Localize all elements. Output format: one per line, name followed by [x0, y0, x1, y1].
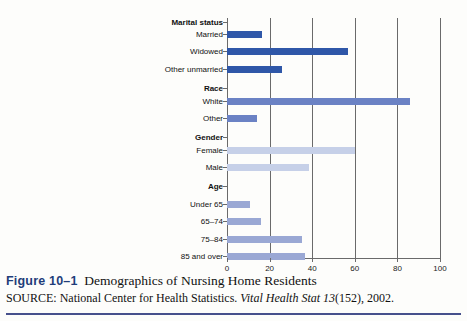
bar-65-74 [227, 218, 261, 225]
bar-male [227, 164, 309, 171]
category-axis-labels: Marital status Married Widowed Other unm… [0, 18, 223, 258]
bar-under-65 [227, 201, 250, 208]
source-prefix: SOURCE: National Center for Health Stati… [6, 291, 237, 305]
category-label-65-74: 65–74 [201, 217, 223, 226]
xtick-mark-60 [355, 258, 356, 262]
bar-female [227, 147, 355, 154]
category-label-75-84: 75–84 [201, 235, 223, 244]
bar-75-84 [227, 236, 302, 243]
xtick-mark-80 [397, 258, 398, 262]
gridline-80 [397, 18, 398, 258]
cat-tick-race [223, 88, 227, 89]
bar-other-unmarried [227, 66, 282, 73]
caption-source-line: SOURCE: National Center for Health Stati… [6, 290, 461, 306]
figure-number: Figure 10–1 [6, 274, 78, 288]
bar-chart: Marital status Married Widowed Other unm… [0, 0, 467, 272]
group-label-race: Race [204, 84, 223, 93]
group-label-gender: Gender [195, 133, 223, 142]
category-label-85-and-over: 85 and over [181, 252, 223, 261]
category-label-male: Male [206, 163, 223, 172]
bar-white [227, 98, 410, 105]
category-label-widowed: Widowed [190, 47, 223, 56]
figure-caption: Figure 10–1 Demographics of Nursing Home… [6, 272, 461, 306]
gridline-60 [355, 18, 356, 258]
bar-married [227, 31, 262, 38]
category-label-other: Other [203, 114, 223, 123]
xtick-mark-20 [270, 258, 271, 262]
gridline-100 [440, 18, 441, 258]
cat-tick-gender [223, 137, 227, 138]
bar-other [227, 115, 257, 122]
source-suffix: (152), 2002. [335, 291, 394, 305]
group-label-age: Age [208, 182, 223, 191]
cat-tick-age [223, 186, 227, 187]
category-label-married: Married [196, 30, 223, 39]
xtick-mark-0 [227, 258, 228, 262]
category-label-white: White [203, 97, 223, 106]
plot-area: 0 20 40 60 80 100 [227, 18, 440, 258]
source-journal: Vital Health Stat 13 [240, 291, 335, 305]
xtick-mark-40 [312, 258, 313, 262]
category-label-other-unmarried: Other unmarried [165, 65, 223, 74]
caption-title-line: Figure 10–1 Demographics of Nursing Home… [6, 272, 461, 290]
category-label-female: Female [196, 146, 223, 155]
xtick-mark-100 [440, 258, 441, 262]
bottom-rule [6, 313, 461, 315]
figure-title: Demographics of Nursing Home Residents [84, 273, 316, 288]
bar-85-and-over [227, 253, 305, 260]
cat-tick-marital [223, 22, 227, 23]
category-label-under-65: Under 65 [190, 200, 223, 209]
figure-container: Marital status Married Widowed Other unm… [0, 0, 467, 321]
bar-widowed [227, 48, 348, 55]
group-label-marital-status: Marital status [171, 18, 223, 27]
